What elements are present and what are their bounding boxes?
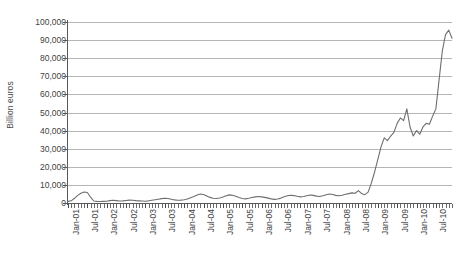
x-axis-tickmark	[74, 204, 75, 208]
x-axis-tickmark	[104, 204, 105, 208]
x-axis-tickmark	[136, 204, 137, 208]
x-axis-tickmark	[174, 204, 175, 208]
x-axis-tickmark	[113, 204, 114, 208]
x-axis-tickmark	[236, 204, 237, 208]
x-axis-tickmark	[278, 204, 279, 208]
x-axis-tickmark	[249, 204, 250, 208]
x-axis-tickmark	[226, 204, 227, 208]
x-axis-tick-label: Jan-01	[72, 209, 81, 235]
x-axis-tickmark	[229, 204, 230, 208]
x-axis-tickmark	[316, 204, 317, 208]
x-axis-tick-label: Jan-02	[110, 209, 119, 235]
x-axis-tickmark	[313, 204, 314, 208]
x-axis-tickmark	[358, 204, 359, 208]
y-axis-tick-labels: 010,00020,00030,00040,00050,00060,00070,…	[18, 0, 66, 215]
x-axis-tickmark	[110, 204, 111, 208]
y-axis-tick-label: 0	[18, 199, 66, 208]
x-axis-tickmark	[426, 204, 427, 208]
x-axis-tick-label: Jan-04	[188, 209, 197, 235]
x-axis-tickmark	[417, 204, 418, 208]
x-axis-tickmark	[300, 204, 301, 208]
x-axis-tick-label: Jul-04	[207, 209, 216, 232]
x-axis-tickmark	[407, 204, 408, 208]
y-axis-tickmark	[63, 94, 68, 95]
x-axis-tickmark	[210, 204, 211, 208]
x-axis-tickmark	[258, 204, 259, 208]
x-axis-tickmark	[439, 204, 440, 208]
y-axis-title-label: Billion euros	[5, 81, 15, 129]
x-axis-tickmark	[268, 204, 269, 208]
x-axis-tickmark	[368, 204, 369, 208]
x-axis-tickmark	[384, 204, 385, 208]
x-axis-tickmark	[410, 204, 411, 208]
x-axis-tickmark	[394, 204, 395, 208]
x-axis-tickmark	[262, 204, 263, 208]
x-axis-tickmark	[346, 204, 347, 208]
x-axis-tickmark	[165, 204, 166, 208]
y-axis-tickmark	[63, 149, 68, 150]
x-axis-tick-label: Jul-10	[439, 209, 448, 232]
x-axis-tickmark	[116, 204, 117, 208]
x-axis-tickmark	[100, 204, 101, 208]
x-axis-tick-label: Jul-01	[91, 209, 100, 232]
x-axis-tickmark	[297, 204, 298, 208]
x-axis-tick-labels: Jan-01Jul-01Jan-02Jul-02Jan-03Jul-03Jan-…	[68, 209, 452, 257]
x-axis-tickmark	[149, 204, 150, 208]
y-axis-tick-label: 30,000	[18, 145, 66, 154]
x-axis-tickmark	[107, 204, 108, 208]
y-axis-tick-label: 50,000	[18, 109, 66, 118]
x-axis-tickmark	[120, 204, 121, 208]
x-axis-tickmark	[97, 204, 98, 208]
x-axis-tick-label: Jul-08	[362, 209, 371, 232]
x-axis-tickmark	[275, 204, 276, 208]
x-axis-tickmark	[326, 204, 327, 208]
x-axis-tickmark	[152, 204, 153, 208]
x-axis-tickmark	[284, 204, 285, 208]
x-axis-tickmark	[139, 204, 140, 208]
y-axis-tickmark	[63, 167, 68, 168]
x-axis-tickmark	[281, 204, 282, 208]
x-axis-tick-label: Jul-02	[130, 209, 139, 232]
x-axis-tick-label: Jul-09	[401, 209, 410, 232]
x-axis-tickmark	[84, 204, 85, 208]
x-axis-tickmark	[387, 204, 388, 208]
line-chart: Billion euros 010,00020,00030,00040,0005…	[0, 0, 468, 257]
x-axis-tickmark	[378, 204, 379, 208]
x-axis-tickmark	[145, 204, 146, 208]
x-axis-tick-label: Jul-07	[323, 209, 332, 232]
x-axis-tickmark	[158, 204, 159, 208]
x-axis-tickmark	[207, 204, 208, 208]
x-axis-tickmark	[242, 204, 243, 208]
x-axis-tick-label: Jan-05	[226, 209, 235, 235]
x-axis-tickmark	[91, 204, 92, 208]
x-axis-tickmark	[245, 204, 246, 208]
x-axis-tickmark	[191, 204, 192, 208]
x-axis-tickmarks	[68, 204, 452, 208]
x-axis-tickmark	[433, 204, 434, 208]
y-axis-tickmark	[63, 22, 68, 23]
x-axis-tickmark	[423, 204, 424, 208]
x-axis-tickmark	[446, 204, 447, 208]
y-axis-tick-label: 90,000	[18, 36, 66, 45]
x-axis-tickmark	[155, 204, 156, 208]
x-axis-tickmark	[397, 204, 398, 208]
plot-area	[68, 22, 452, 203]
x-axis-tickmark	[320, 204, 321, 208]
x-axis-tickmark	[420, 204, 421, 208]
x-axis-tick-label: Jul-03	[168, 209, 177, 232]
x-axis-tickmark	[162, 204, 163, 208]
x-axis-tickmark	[197, 204, 198, 208]
x-axis-tickmark	[442, 204, 443, 208]
x-axis-tickmark	[171, 204, 172, 208]
x-axis-tickmark	[375, 204, 376, 208]
x-axis-tick-label: Jan-03	[149, 209, 158, 235]
y-axis-tick-label: 60,000	[18, 90, 66, 99]
x-axis-tickmark	[355, 204, 356, 208]
x-axis-tickmark	[178, 204, 179, 208]
x-axis-tickmark	[184, 204, 185, 208]
x-axis-tickmark	[200, 204, 201, 208]
x-axis-tickmark	[181, 204, 182, 208]
y-axis-tick-label: 20,000	[18, 163, 66, 172]
x-axis-tickmark	[323, 204, 324, 208]
y-axis-tick-label: 70,000	[18, 72, 66, 81]
